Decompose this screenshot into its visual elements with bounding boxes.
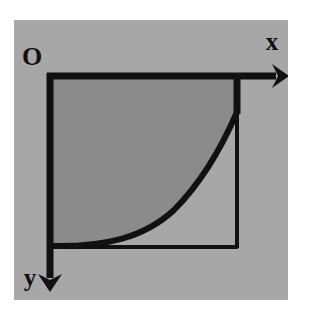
y-axis-label: y	[24, 264, 37, 291]
figure-stage: O x y	[0, 0, 309, 314]
figure-panel: O x y	[14, 20, 288, 300]
diagram-svg: O x y	[14, 20, 288, 300]
x-axis-label: x	[266, 28, 279, 55]
origin-label: O	[22, 42, 42, 71]
